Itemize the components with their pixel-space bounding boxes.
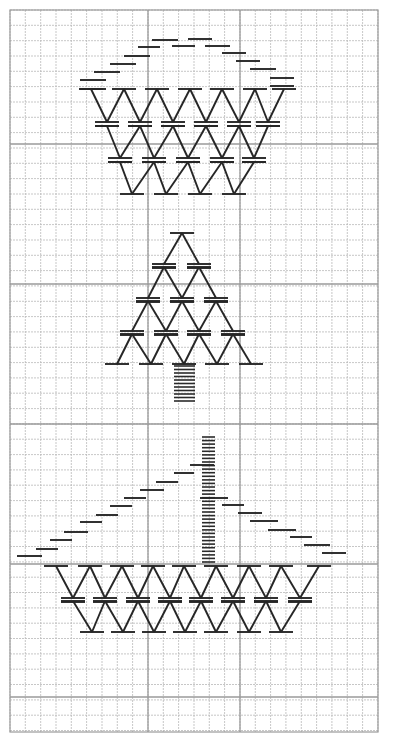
diagonal-stitch (140, 126, 154, 158)
diagonal-stitch (206, 126, 222, 158)
diagonal-stitch (164, 233, 182, 264)
diagonal-stitch (239, 126, 254, 158)
diagonal-stitch (154, 601, 170, 632)
diagonal-stitch (249, 566, 266, 598)
graph-paper-grid (10, 10, 378, 732)
diagonal-stitch (138, 566, 153, 598)
diagonal-stitch (73, 601, 92, 632)
diagonal-stitch (105, 601, 123, 632)
diagonal-stitch (281, 601, 300, 632)
diagonal-stitch (199, 334, 217, 364)
diagonal-stitch (153, 566, 170, 598)
diagonal-stitch (201, 566, 216, 598)
diagonal-stitch (200, 162, 222, 194)
diagonal-stitch (199, 267, 216, 298)
diagonal-stitch (182, 233, 199, 264)
diagonal-stitch (122, 566, 138, 598)
diagonal-stitch (151, 334, 166, 364)
diagonal-stitch (90, 566, 105, 598)
diagonal-stitch (170, 566, 184, 598)
diagonal-stitch (201, 601, 216, 632)
diagonal-stitch (188, 126, 206, 158)
diagonal-stitch (249, 601, 266, 632)
diagonal-stitch (138, 601, 154, 632)
diagonal-stitch (73, 566, 90, 598)
basket-motif (79, 39, 296, 194)
diagonal-stitch (233, 601, 249, 632)
diagonal-stitch (107, 126, 120, 158)
diagonal-stitch (233, 566, 249, 598)
diagonal-stitch (222, 162, 234, 194)
diagonal-stitch (148, 267, 164, 298)
diagonal-stitch (266, 566, 281, 598)
diagonal-stitch (254, 126, 268, 158)
diagonal-stitch (166, 162, 188, 194)
diagonal-stitch (184, 334, 199, 364)
sailboat-motif (17, 437, 346, 632)
diagonal-stitch (164, 267, 182, 298)
diagonal-stitch (166, 301, 182, 331)
diagonal-stitch (166, 334, 184, 364)
diagonal-stitch (233, 334, 251, 364)
diagonal-stitch (120, 126, 140, 158)
diagonal-stitch (199, 301, 216, 331)
diagonal-stitch (132, 301, 148, 331)
diagonal-stitch (105, 566, 122, 598)
diagonal-stitch (266, 601, 281, 632)
diagonal-stitch (185, 601, 201, 632)
diagonal-stitch (170, 601, 185, 632)
diagonal-stitch (56, 566, 73, 598)
stitch-pattern-chart (0, 0, 393, 751)
diagonal-stitch (281, 566, 300, 598)
diagonal-stitch (173, 126, 188, 158)
diagonal-stitch (117, 334, 132, 364)
diagonal-stitch (300, 566, 319, 598)
diagonal-stitch (120, 162, 132, 194)
diagonal-stitch (182, 267, 199, 298)
diagonal-stitch (234, 162, 254, 194)
diagonal-stitch (132, 162, 154, 194)
diagonal-stitch (182, 301, 199, 331)
diagonal-stitch (154, 162, 166, 194)
diagonal-stitch (92, 601, 105, 632)
diagonal-stitch (123, 601, 138, 632)
diagonal-stitch (184, 566, 201, 598)
